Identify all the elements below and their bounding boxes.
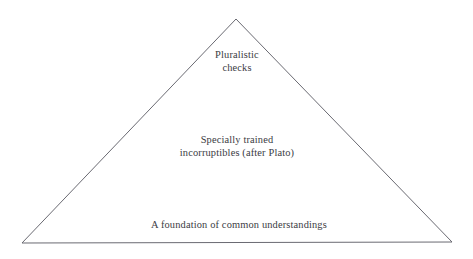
tier-label-middle-line-1: Specially trained	[117, 134, 357, 147]
tier-label-apex-line-1: Pluralistic	[137, 49, 337, 62]
diagram-canvas: Pluralistic checks Specially trained inc…	[0, 0, 473, 259]
tier-label-apex: Pluralistic checks	[137, 49, 337, 74]
tier-label-middle: Specially trained incorruptibles (after …	[117, 134, 357, 159]
tier-label-middle-line-2: incorruptibles (after Plato)	[117, 147, 357, 160]
tier-label-apex-line-2: checks	[137, 62, 337, 75]
tier-label-base-line-1: A foundation of common understandings	[89, 219, 389, 232]
tier-label-base: A foundation of common understandings	[89, 219, 389, 232]
